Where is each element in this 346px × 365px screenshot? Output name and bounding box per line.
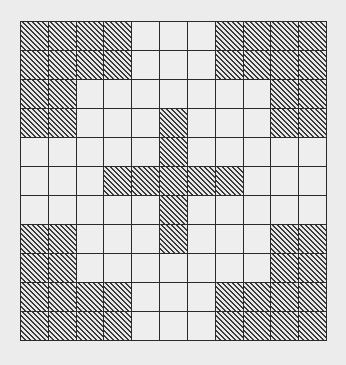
empty-cell — [188, 51, 216, 80]
hatched-cell — [132, 167, 160, 196]
empty-cell — [132, 80, 160, 109]
hatched-cell — [299, 51, 327, 80]
empty-cell — [104, 109, 132, 138]
empty-cell — [132, 51, 160, 80]
hatched-cell — [49, 283, 77, 312]
empty-cell — [188, 283, 216, 312]
hatched-cell — [244, 283, 272, 312]
hatched-cell — [49, 80, 77, 109]
empty-cell — [160, 80, 188, 109]
empty-cell — [188, 138, 216, 167]
hatched-cell — [49, 51, 77, 80]
empty-cell — [299, 196, 327, 225]
hatched-cell — [104, 312, 132, 341]
hatched-cell — [216, 51, 244, 80]
hatched-cell — [21, 312, 49, 341]
empty-cell — [160, 51, 188, 80]
empty-cell — [77, 138, 105, 167]
empty-cell — [132, 138, 160, 167]
empty-cell — [49, 167, 77, 196]
hatched-cell — [271, 312, 299, 341]
hatched-cell — [21, 254, 49, 283]
empty-cell — [271, 138, 299, 167]
empty-cell — [77, 109, 105, 138]
hatched-cell — [49, 254, 77, 283]
empty-cell — [21, 138, 49, 167]
hatched-cell — [160, 167, 188, 196]
empty-cell — [216, 138, 244, 167]
empty-cell — [188, 80, 216, 109]
empty-cell — [104, 80, 132, 109]
hatched-cell — [271, 225, 299, 254]
hatched-cell — [299, 22, 327, 51]
hatched-cell — [21, 80, 49, 109]
hatched-cell — [49, 225, 77, 254]
empty-cell — [49, 196, 77, 225]
empty-cell — [244, 225, 272, 254]
empty-cell — [244, 167, 272, 196]
hatched-cell — [271, 109, 299, 138]
empty-cell — [299, 138, 327, 167]
empty-cell — [160, 22, 188, 51]
empty-cell — [244, 254, 272, 283]
empty-cell — [188, 22, 216, 51]
empty-cell — [104, 225, 132, 254]
hatched-cell — [244, 51, 272, 80]
hatched-cell — [49, 109, 77, 138]
hatched-cell — [77, 51, 105, 80]
empty-cell — [132, 312, 160, 341]
hatched-cell — [299, 312, 327, 341]
hatched-grid — [20, 21, 327, 341]
empty-cell — [244, 109, 272, 138]
empty-cell — [216, 80, 244, 109]
hatched-cell — [188, 167, 216, 196]
empty-cell — [216, 196, 244, 225]
hatched-cell — [271, 22, 299, 51]
empty-cell — [160, 254, 188, 283]
hatched-cell — [21, 109, 49, 138]
hatched-cell — [216, 283, 244, 312]
hatched-cell — [21, 22, 49, 51]
empty-cell — [104, 196, 132, 225]
empty-cell — [132, 254, 160, 283]
hatched-cell — [299, 109, 327, 138]
hatched-cell — [299, 283, 327, 312]
hatched-cell — [104, 167, 132, 196]
hatched-cell — [21, 51, 49, 80]
empty-cell — [244, 196, 272, 225]
empty-cell — [188, 312, 216, 341]
hatched-cell — [77, 283, 105, 312]
hatched-cell — [299, 225, 327, 254]
empty-cell — [244, 138, 272, 167]
empty-cell — [188, 254, 216, 283]
hatched-cell — [244, 22, 272, 51]
hatched-cell — [244, 312, 272, 341]
empty-cell — [160, 283, 188, 312]
hatched-cell — [216, 167, 244, 196]
hatched-cell — [160, 138, 188, 167]
empty-cell — [188, 196, 216, 225]
hatched-cell — [271, 80, 299, 109]
hatched-cell — [216, 312, 244, 341]
hatched-cell — [77, 22, 105, 51]
hatched-cell — [299, 80, 327, 109]
empty-cell — [132, 22, 160, 51]
hatched-cell — [216, 22, 244, 51]
hatched-cell — [21, 225, 49, 254]
empty-cell — [132, 225, 160, 254]
empty-cell — [299, 167, 327, 196]
hatched-cell — [104, 51, 132, 80]
hatched-cell — [49, 22, 77, 51]
empty-cell — [77, 225, 105, 254]
empty-cell — [104, 254, 132, 283]
empty-cell — [216, 109, 244, 138]
hatched-cell — [160, 225, 188, 254]
empty-cell — [271, 167, 299, 196]
empty-cell — [188, 109, 216, 138]
empty-cell — [216, 225, 244, 254]
empty-cell — [244, 80, 272, 109]
hatched-cell — [271, 254, 299, 283]
diagram-page — [0, 0, 346, 365]
empty-cell — [160, 312, 188, 341]
empty-cell — [21, 167, 49, 196]
